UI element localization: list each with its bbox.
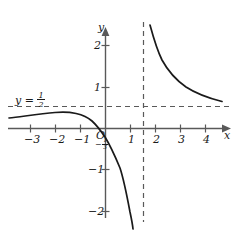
y-intercept-negative-fraction: − 1 3 (95, 139, 108, 152)
x-tick-label-3: 3 (178, 134, 185, 145)
y-intercept-minus-sign: − (95, 141, 102, 149)
y-tick-label--1: −1 (88, 164, 104, 175)
y-intercept-label: − 1 3 (95, 139, 108, 152)
y-axis-label: y (98, 22, 104, 33)
horizontal-asymptote-label: y = 1 2 (15, 92, 45, 109)
asymptote-fraction-denominator: 2 (37, 99, 44, 108)
x-tick-label-2: 2 (153, 134, 160, 145)
x-axis (8, 125, 231, 133)
x-tick-label--3: −3 (24, 134, 40, 145)
asymptote-label-y: y (15, 94, 21, 107)
curve-left-branch (9, 112, 133, 229)
curve-right-branch (150, 25, 222, 102)
x-tick-label--2: −2 (49, 134, 65, 145)
asymptote-label-fraction: 1 2 (37, 91, 44, 108)
y-tick-label--2: −2 (88, 206, 104, 217)
plot-canvas (0, 0, 236, 237)
y-tick-label-1: 1 (94, 82, 101, 93)
y-intercept-denominator: 3 (102, 144, 108, 151)
y-intercept-fraction: 1 3 (102, 138, 108, 151)
x-tick-label-4: 4 (203, 134, 210, 145)
asymptote-label-equals: = (25, 94, 34, 107)
asymptote-fraction-numerator: 1 (37, 91, 44, 99)
x-tick-label--1: −1 (74, 134, 90, 145)
y-tick-label-2: 2 (94, 40, 101, 51)
y-axis (102, 27, 110, 218)
rational-function-graph: −3 −2 −1 1 2 3 4 2 1 −1 −2 y x O y = 1 2… (0, 0, 236, 237)
x-axis-label: x (224, 130, 230, 141)
x-tick-label-1: 1 (128, 134, 135, 145)
